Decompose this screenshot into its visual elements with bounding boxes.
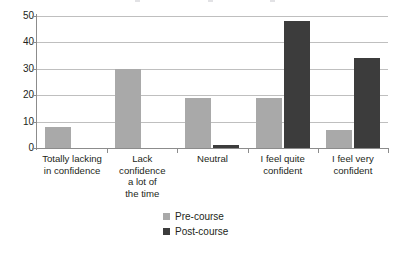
legend-label: Post-course <box>175 226 228 237</box>
legend-swatch-icon <box>163 213 170 220</box>
category-label: Lackconfidencea lot ofthe time <box>107 153 177 199</box>
bar-group <box>37 16 107 148</box>
y-tickmark <box>32 122 37 123</box>
y-tick-label: 50 <box>10 11 34 21</box>
category-label: Neutral <box>177 153 247 165</box>
y-tickmark <box>32 69 37 70</box>
y-tickmark <box>32 95 37 96</box>
y-tick-label: 10 <box>10 117 34 127</box>
y-tick-label: 40 <box>10 37 34 47</box>
chart-legend: Pre-coursePost-course <box>0 209 400 239</box>
category-label: Totally lackingin confidence <box>37 153 107 176</box>
bar-post-course <box>213 145 239 148</box>
legend-label: Pre-course <box>175 211 224 222</box>
bar-group <box>107 16 177 148</box>
legend-item[interactable]: Post-course <box>0 224 400 239</box>
x-tickmark <box>388 148 389 153</box>
bar-pre-course <box>115 69 141 148</box>
y-tickmark <box>32 42 37 43</box>
category-label-line: Neutral <box>197 153 228 164</box>
category-label: I feel quiteconfident <box>248 153 318 176</box>
bar-pre-course <box>326 130 352 148</box>
category-label-line: confident <box>263 165 302 176</box>
y-tick-label: 20 <box>10 90 34 100</box>
legend-item[interactable]: Pre-course <box>0 209 400 224</box>
category-label-line: in confidence <box>44 165 101 176</box>
category-label-line: I feel very <box>332 153 374 164</box>
category-label-line: confidence <box>119 165 165 176</box>
y-tick-label: 0 <box>10 143 34 153</box>
category-label-line: I feel quite <box>261 153 305 164</box>
category-label-line: Lack <box>132 153 152 164</box>
category-label-line: a lot of <box>128 176 157 187</box>
y-tickmark <box>32 16 37 17</box>
category-label-line: Totally lacking <box>42 153 102 164</box>
x-axis-baseline <box>37 148 388 149</box>
bar-group <box>318 16 388 148</box>
bar-pre-course <box>45 127 71 148</box>
bar-chart: 50403020100 Totally lackingin confidence… <box>0 0 400 253</box>
bar-post-course <box>354 58 380 148</box>
legend-swatch-icon <box>163 228 170 235</box>
bar-pre-course <box>185 98 211 148</box>
bar-group <box>177 16 247 148</box>
plot-wrapper: 50403020100 <box>0 0 400 152</box>
category-label: I feel veryconfident <box>318 153 388 176</box>
y-tick-label: 30 <box>10 64 34 74</box>
bar-post-course <box>284 21 310 148</box>
y-axis-labels: 50403020100 <box>10 0 34 152</box>
category-label-line: confident <box>333 165 372 176</box>
plot-area <box>37 16 388 148</box>
bar-group <box>248 16 318 148</box>
bar-pre-course <box>256 98 282 148</box>
y-tickmark <box>32 148 37 149</box>
x-axis-category-labels: Totally lackingin confidenceLackconfiden… <box>37 153 388 205</box>
category-label-line: the time <box>125 188 159 199</box>
